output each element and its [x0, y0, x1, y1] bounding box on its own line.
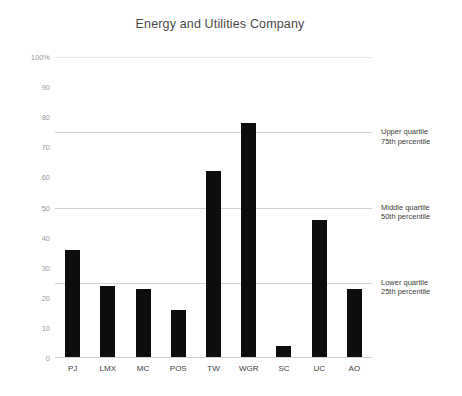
annotation-line-1: Middle quartile [381, 203, 430, 212]
quartile-annotation: Lower quartile25th percentile [381, 278, 430, 297]
y-axis-tick-label: 100% [6, 53, 50, 62]
y-axis-tick-label: 30 [6, 263, 50, 272]
bar [347, 289, 362, 358]
y-axis-tick-label: 0 [6, 354, 50, 363]
y-axis-tick-label: 60 [6, 173, 50, 182]
annotation-line-2: 50th percentile [381, 212, 430, 222]
y-axis-tick-label: 70 [6, 143, 50, 152]
plot-area [55, 57, 372, 358]
gridline [55, 57, 372, 58]
bar-chart: Energy and Utilities Company 01020304050… [0, 0, 462, 396]
bar [171, 310, 186, 358]
x-axis-baseline [55, 357, 372, 358]
x-axis-tick-label: AO [334, 364, 374, 373]
x-axis-tick-label: MC [123, 364, 163, 373]
gridline [55, 132, 372, 133]
x-axis-tick-label: WGR [229, 364, 269, 373]
x-axis-tick-label: TW [194, 364, 234, 373]
annotation-line-1: Lower quartile [381, 278, 428, 287]
annotation-line-2: 25th percentile [381, 287, 430, 297]
bar [65, 250, 80, 358]
annotation-line-1: Upper quartile [381, 127, 428, 136]
y-axis-tick-label: 50 [6, 203, 50, 212]
x-axis-tick-label: POS [158, 364, 198, 373]
bar [100, 286, 115, 358]
x-axis-tick-label: SC [264, 364, 304, 373]
x-axis-tick-label: LMX [88, 364, 128, 373]
bar [206, 171, 221, 358]
y-axis: 0102030405060708090100% [0, 57, 50, 358]
y-axis-tick-label: 20 [6, 293, 50, 302]
x-axis-tick-label: PJ [53, 364, 93, 373]
y-axis-tick-label: 10 [6, 323, 50, 332]
y-axis-tick-label: 90 [6, 83, 50, 92]
quartile-annotation: Upper quartile75th percentile [381, 127, 430, 146]
annotation-line-2: 75th percentile [381, 137, 430, 147]
bar [136, 289, 151, 358]
x-axis-tick-label: UC [299, 364, 339, 373]
quartile-annotation: Middle quartile50th percentile [381, 203, 430, 222]
y-axis-tick-label: 80 [6, 113, 50, 122]
bar [312, 220, 327, 358]
chart-title: Energy and Utilities Company [0, 17, 440, 31]
y-axis-tick-label: 40 [6, 233, 50, 242]
bar [241, 123, 256, 358]
